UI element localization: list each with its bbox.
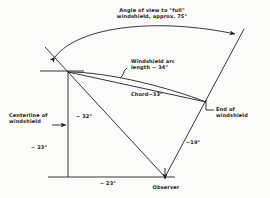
centerline-label: Centerline of windshield [9, 112, 57, 124]
chord-label: Chord∼33" [131, 91, 183, 97]
angle-of-view-label: Angle of view to "full" windshield, appr… [106, 7, 198, 19]
observer-label: Observer [146, 184, 186, 190]
horizontal-dimension-label: ∼ 23" [88, 180, 128, 186]
sight-line-right [165, 29, 244, 177]
angle-right-label: ∼19° [186, 139, 212, 145]
arc-length-leader [120, 68, 127, 78]
windshield-view-diagram: Angle of view to "full" windshield, appr… [0, 0, 270, 198]
arc-length-label: Windshield arc length ∼ 34" [131, 58, 191, 70]
chord-line [68, 72, 206, 102]
diagram-canvas [0, 0, 270, 198]
end-of-windshield-label: End of windshield [216, 106, 264, 118]
end-of-windshield-leader [206, 100, 214, 110]
angle-left-label: ∼ 32° [76, 113, 104, 119]
vertical-dimension-label: ∼ 23" [31, 144, 61, 150]
angle-of-view-arc [55, 26, 235, 57]
